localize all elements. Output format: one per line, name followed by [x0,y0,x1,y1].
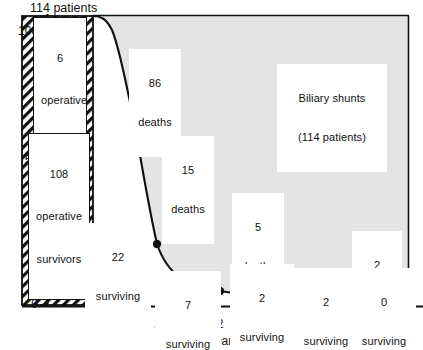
surviving-count-year-5: 0 [357,296,411,309]
surviving-label-year-3: 2 surviving [230,264,294,350]
surviving-count-year-1: 22 [90,251,146,264]
surviving-count-year-3: 2 [235,292,289,305]
total-patients-caption: 114 patients [30,1,97,15]
surviving-label-year-5: 0 surviving [352,268,416,350]
operative-survivors-box: 108 operative survivors [28,133,90,300]
legend-line-2: (114 patients) [282,131,382,144]
deaths-word-0-1: deaths [134,116,176,129]
surviving-count-year-4: 2 [299,296,353,309]
deaths-word-1-2: deaths [167,203,209,216]
deaths-count-1-2: 15 [167,164,209,177]
surviving-label-year-4: 2 surviving [294,268,358,350]
surviving-label-year-2: 7 surviving [155,271,221,350]
operative-survivors-line3: survivors [36,252,82,266]
surviving-count-year-2: 7 [160,299,216,312]
surviving-word-year-5: surviving [357,335,411,348]
surviving-word-year-2: surviving [160,338,216,350]
deaths-count-0-1: 86 [134,77,176,90]
legend-line-1: Biliary shunts [282,92,382,105]
deaths-count-2-3: 5 [237,221,279,234]
operative-deaths-count: 6 [41,51,79,65]
surviving-word-year-1: surviving [90,290,146,303]
legend-box: Biliary shunts (114 patients) [277,64,387,172]
figure-root: 114 patients 100 50 0 0 1 2 3 4 5 Years … [0,0,423,350]
deaths-label-1-2: 15 deaths [162,136,214,244]
surviving-word-year-3: surviving [235,331,289,344]
operative-survivors-line2: operative [36,209,82,223]
operative-deaths-line2: operative [41,93,79,107]
data-point-year-1 [153,240,161,248]
surviving-label-year-1: 22 surviving [85,223,151,331]
surviving-word-year-4: surviving [299,335,353,348]
operative-survivors-count: 108 [36,167,82,181]
